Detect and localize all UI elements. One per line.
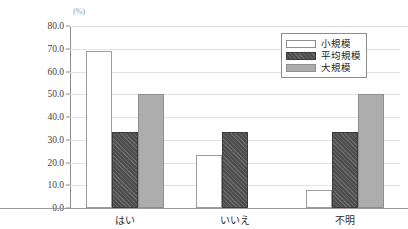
legend-item: 大規模 xyxy=(286,62,361,73)
legend-swatch-average xyxy=(286,52,316,60)
y-axis-tick-mark xyxy=(66,71,70,72)
chart-legend: 小規模平均規模大規模 xyxy=(281,33,367,78)
x-axis-label: いいえ xyxy=(220,212,250,227)
y-axis-tick-mark xyxy=(66,139,70,140)
y-axis-tick-label: 20.0 xyxy=(20,158,64,168)
legend-label: 大規模 xyxy=(321,63,351,73)
y-axis-tick-label: 70.0 xyxy=(20,44,64,54)
y-axis-tick-mark xyxy=(66,117,70,118)
top-rule xyxy=(70,26,408,27)
y-axis-tick-label: 40.0 xyxy=(20,112,64,122)
y-axis-unit-label: (%) xyxy=(73,6,85,16)
legend-label: 平均規模 xyxy=(321,51,361,61)
y-axis-tick-label: 80.0 xyxy=(20,21,64,31)
y-axis-tick-label: 50.0 xyxy=(20,89,64,99)
y-axis-tick-mark xyxy=(66,185,70,186)
bar-chart: (%) 0.010.020.030.040.050.060.070.080.0 … xyxy=(0,0,408,229)
x-axis-baseline xyxy=(0,208,408,209)
y-axis-tick-label: 60.0 xyxy=(20,67,64,77)
legend-swatch-small xyxy=(286,40,316,48)
legend-item: 平均規模 xyxy=(286,50,361,61)
y-axis-tick-mark xyxy=(66,162,70,163)
legend-label: 小規模 xyxy=(321,39,351,49)
y-axis-tick-label: 10.0 xyxy=(20,180,64,190)
legend-item: 小規模 xyxy=(286,38,361,49)
y-axis-tick-mark xyxy=(66,48,70,49)
legend-swatch-large xyxy=(286,64,316,72)
x-axis-label: 不明 xyxy=(335,212,355,227)
x-axis-label: はい xyxy=(115,212,135,227)
y-axis-tick-label: 30.0 xyxy=(20,135,64,145)
y-axis-tick-mark xyxy=(66,94,70,95)
